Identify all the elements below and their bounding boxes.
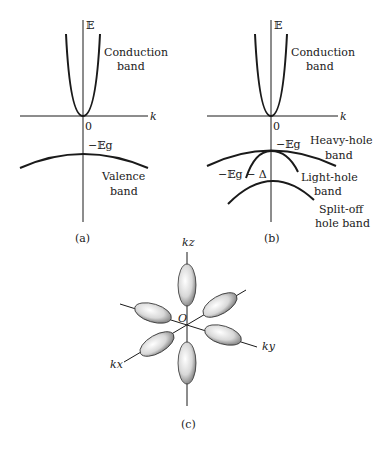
kz-axis-label: kz bbox=[182, 236, 195, 249]
kx-axis-label: kx bbox=[110, 358, 124, 371]
k-axis-label: k bbox=[150, 110, 157, 123]
caption-b: (b) bbox=[264, 232, 280, 245]
valley-ellipsoid-lower-right bbox=[202, 321, 244, 349]
valence-band-label-1: Valence bbox=[101, 170, 145, 183]
valley-ellipsoid-upper-right bbox=[199, 288, 241, 323]
valley-ellipsoid-top bbox=[178, 264, 196, 306]
panel-a: 𝔼 k 0 −𝔼g Conduction band Valence band (… bbox=[20, 19, 168, 245]
gap-label: −𝔼g bbox=[88, 139, 113, 152]
split-off-energy-label: −𝔼g − Δ bbox=[218, 168, 267, 181]
origin-label: O bbox=[178, 312, 187, 325]
conduction-band-label-1: Conduction bbox=[291, 46, 355, 59]
split-off-band-label-2: hole band bbox=[315, 217, 370, 230]
caption-a: (a) bbox=[75, 232, 90, 245]
light-hole-band-label-2: band bbox=[314, 185, 342, 198]
light-hole-band-label-1: Light-hole bbox=[301, 171, 358, 184]
k-axis-label: k bbox=[340, 110, 347, 123]
band-structure-figure: 𝔼 k 0 −𝔼g Conduction band Valence band (… bbox=[0, 0, 384, 450]
valley-ellipsoid-bottom bbox=[178, 342, 196, 384]
panel-b: 𝔼 k 0 −𝔼g −𝔼g − Δ Conduction band Heavy-… bbox=[207, 19, 373, 245]
valley-ellipsoid-lower-left bbox=[136, 327, 178, 362]
valley-ellipsoid-upper-left bbox=[132, 299, 174, 327]
gap-label: −𝔼g bbox=[276, 138, 301, 151]
ky-axis-label: ky bbox=[262, 340, 276, 353]
energy-axis-label: 𝔼 bbox=[274, 19, 282, 32]
split-off-band-label-1: Split-off bbox=[319, 203, 364, 216]
caption-c: (c) bbox=[181, 418, 196, 431]
conduction-band-label-2: band bbox=[306, 60, 334, 73]
origin-label: 0 bbox=[85, 120, 92, 133]
valence-band-label-2: band bbox=[110, 185, 138, 198]
heavy-hole-band-label-2: band bbox=[325, 149, 353, 162]
heavy-hole-band-label-1: Heavy-hole bbox=[310, 134, 373, 147]
energy-axis-label: 𝔼 bbox=[86, 19, 94, 32]
conduction-band-label-1: Conduction bbox=[104, 46, 168, 59]
conduction-band-label-2: band bbox=[117, 60, 145, 73]
panel-c: kz ky kx O (c) bbox=[110, 236, 276, 431]
origin-label: 0 bbox=[273, 120, 280, 133]
valence-band-curve bbox=[20, 154, 148, 168]
